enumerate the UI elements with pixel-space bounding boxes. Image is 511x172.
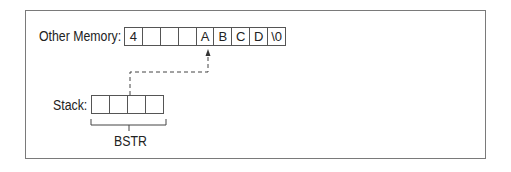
bstr-bracket-icon: [91, 119, 166, 131]
bstr-label: BSTR: [114, 132, 147, 150]
pointer-arrow-icon: [130, 49, 211, 95]
connectors: [0, 0, 511, 172]
